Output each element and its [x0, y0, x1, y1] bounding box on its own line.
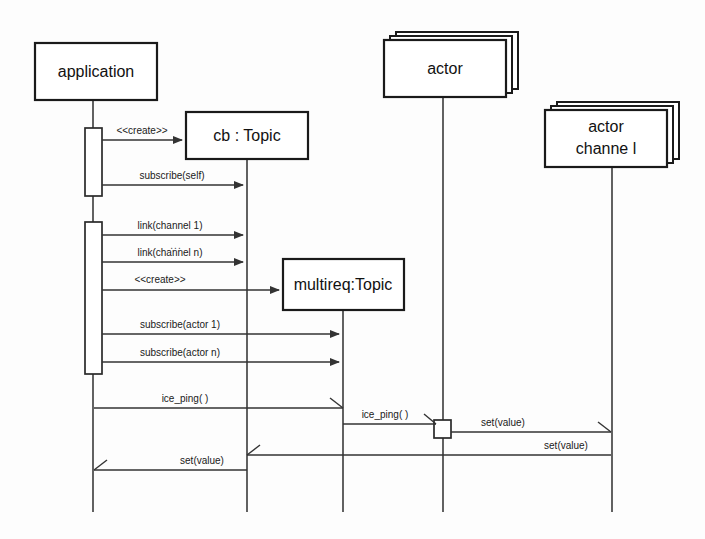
message-label-set-value-2: set(value) — [544, 440, 588, 451]
participant-actor-channel[interactable]: actor channe l — [545, 102, 679, 167]
message-label-subscribe-actor-1: subscribe(actor 1) — [140, 319, 220, 330]
sequence-diagram-svg: application cb : Topic multireq:Topic ac… — [0, 0, 705, 539]
participant-label-cb-topic: cb : Topic — [213, 127, 280, 144]
participant-label-actor-channel-line1: actor — [588, 118, 624, 135]
participant-label-actor-channel-line2: channe l — [576, 140, 637, 157]
message-arrowhead-ice-ping-1 — [330, 398, 343, 408]
message-label-ice-ping-2: ice_ping( ) — [362, 409, 409, 420]
message-create-cb-topic[interactable]: <<create>> — [102, 125, 182, 140]
activation-application-1 — [85, 128, 102, 196]
sequence-diagram-canvas: application cb : Topic multireq:Topic ac… — [0, 0, 705, 539]
participant-label-application: application — [58, 63, 135, 80]
message-link-channel-n[interactable]: link(channel n) — [102, 247, 243, 262]
message-create-multireq-topic[interactable]: <<create>> — [102, 274, 279, 290]
message-label-ice-ping-1: ice_ping( ) — [162, 393, 209, 404]
message-label-set-value-1: set(value) — [481, 417, 525, 428]
message-ice-ping-1[interactable]: ice_ping( ) — [94, 393, 343, 408]
message-arrowhead-set-value-1 — [598, 422, 611, 432]
participant-multireq-topic[interactable]: multireq:Topic — [283, 259, 404, 310]
participant-application[interactable]: application — [35, 43, 157, 100]
message-label-link-channel-n: link(channel n) — [137, 247, 202, 258]
message-link-channel-1[interactable]: link(channel 1) — [102, 220, 243, 235]
activation-application-2 — [85, 222, 102, 374]
message-label-subscribe-actor-n: subscribe(actor n) — [140, 347, 220, 358]
message-set-value-1[interactable]: set(value) — [451, 417, 611, 432]
participant-cb-topic[interactable]: cb : Topic — [186, 112, 308, 159]
participant-label-actor: actor — [427, 60, 463, 77]
message-subscribe-actor-1[interactable]: subscribe(actor 1) — [102, 319, 339, 334]
message-arrowhead-set-value-2 — [247, 445, 260, 455]
message-set-value-2[interactable]: set(value) — [247, 440, 611, 455]
message-label-link-channel-1: link(channel 1) — [137, 220, 202, 231]
message-subscribe-actor-n[interactable]: subscribe(actor n) — [102, 347, 339, 362]
message-label-create-multireq-topic: <<create>> — [134, 274, 185, 285]
message-label-create-cb-topic: <<create>> — [116, 125, 167, 136]
message-ice-ping-2[interactable]: ice_ping( ) — [343, 409, 436, 424]
message-label-subscribe-self: subscribe(self) — [139, 170, 204, 181]
participant-label-multireq-topic: multireq:Topic — [294, 276, 393, 293]
message-arrowhead-ice-ping-2 — [424, 414, 436, 424]
message-set-value-3[interactable]: set(value) — [94, 455, 247, 470]
message-subscribe-self[interactable]: subscribe(self) — [102, 170, 243, 185]
participant-actor[interactable]: actor — [384, 32, 518, 97]
message-arrowhead-set-value-3 — [94, 460, 107, 470]
message-label-set-value-3: set(value) — [180, 455, 224, 466]
activation-actor-1 — [434, 420, 451, 438]
